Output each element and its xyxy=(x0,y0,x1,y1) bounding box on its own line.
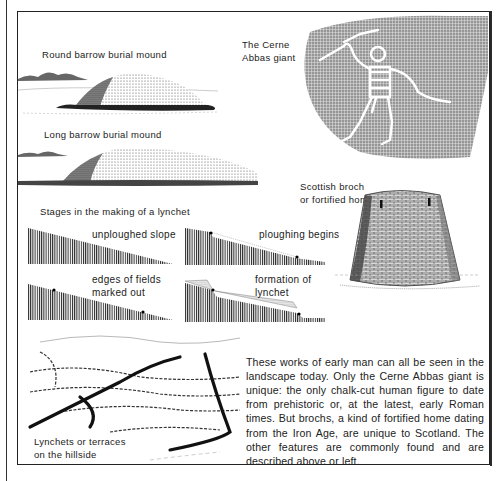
description-paragraph: These works of early man can all be seen… xyxy=(246,355,484,469)
caption-lynchets-line2: on the hillside xyxy=(34,449,97,460)
cerne-abbas-giant-illustration xyxy=(300,12,490,162)
caption-lynchets-hillside: Lynchets or terraceson the hillside xyxy=(34,435,126,461)
stage-unploughed-label: unploughed slope xyxy=(92,229,176,241)
page-margin-rule xyxy=(6,0,7,481)
caption-cerne-abbas: The CerneAbbas giant xyxy=(242,38,295,64)
round-barrow-illustration xyxy=(18,65,228,120)
stage-ploughing-label: ploughing begins xyxy=(259,229,339,241)
caption-cerne-abbas-line1: The Cerne xyxy=(242,39,290,50)
stage-formation-line1: formation of xyxy=(255,274,311,285)
stage-edges-line1: edges of fields xyxy=(92,274,161,285)
caption-lynchets-line1: Lynchets or terraces xyxy=(34,436,126,447)
caption-long-barrow: Long barrow burial mound xyxy=(44,129,162,141)
caption-round-barrow: Round barrow burial mound xyxy=(42,49,167,61)
frame-right-rule xyxy=(490,11,492,466)
broch-illustration xyxy=(340,180,490,300)
long-barrow-illustration xyxy=(18,143,258,188)
lynchet-stages-title: Stages in the making of a lynchet xyxy=(40,206,190,218)
stage-formation-line2: lynchet xyxy=(255,287,289,298)
stage-edges-label: edges of fieldsmarked out xyxy=(92,273,161,299)
stage-edges-line2: marked out xyxy=(92,287,145,298)
caption-cerne-abbas-line2: Abbas giant xyxy=(242,52,295,63)
stage-formation-label: formation oflynchet xyxy=(255,273,311,299)
